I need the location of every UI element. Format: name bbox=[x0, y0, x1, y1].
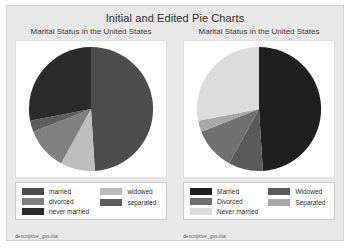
source-note-edited: descriptive_gss.dta bbox=[183, 233, 226, 239]
legend-swatch-married bbox=[22, 188, 44, 195]
plot-area-edited bbox=[183, 40, 335, 178]
legend-swatch-never-married bbox=[190, 208, 212, 215]
panel-edited-pie-chart: Marital Status in the United States bbox=[175, 27, 343, 241]
legend-swatch-never-married bbox=[22, 208, 44, 215]
legend-label-never-married: Never married bbox=[217, 208, 258, 215]
legend-item-never-married[interactable]: never married bbox=[22, 207, 100, 217]
legend-initial: married divorced never married bbox=[15, 182, 167, 220]
panel-subtitle: Marital Status in the United States bbox=[7, 27, 175, 36]
legend-column-1: married divorced never married bbox=[22, 186, 100, 217]
legend-label-separated: Separated bbox=[295, 199, 325, 206]
pie-slice-married[interactable] bbox=[259, 47, 321, 171]
legend-swatch-married bbox=[190, 188, 212, 195]
legend-item-never-married[interactable]: Never married bbox=[190, 207, 268, 217]
legend-item-separated[interactable]: separated bbox=[100, 197, 162, 208]
legend-label-married: Married bbox=[217, 188, 239, 195]
pie-initial bbox=[25, 43, 157, 175]
graph-region: Initial and Edited Pie Charts Marital St… bbox=[6, 5, 344, 241]
legend-swatch-separated bbox=[100, 199, 122, 206]
legend-swatch-widowed bbox=[100, 188, 122, 195]
page-title: Initial and Edited Pie Charts bbox=[7, 12, 343, 24]
pie-slice-never-married[interactable] bbox=[197, 47, 259, 121]
legend-label-never-married: never married bbox=[49, 208, 89, 215]
legend-item-married[interactable]: Married bbox=[190, 186, 268, 196]
legend-label-separated: separated bbox=[127, 199, 156, 206]
source-note-initial: descriptive_gss.dta bbox=[15, 233, 58, 239]
panel-subtitle: Marital Status in the United States bbox=[175, 27, 343, 36]
legend-item-widowed[interactable]: widowed bbox=[100, 186, 162, 197]
pie-slice-never-married[interactable] bbox=[29, 47, 91, 121]
legend-label-divorced: Divorced bbox=[217, 198, 243, 205]
pie-chart-comparison-screen: Initial and Edited Pie Charts Marital St… bbox=[0, 0, 350, 251]
legend-column-1: Married Divorced Never married bbox=[190, 186, 268, 217]
pie-edited-svg bbox=[193, 43, 325, 175]
legend-edited: Married Divorced Never married bbox=[183, 182, 335, 220]
panel-initial-pie-chart: Marital Status in the United States bbox=[7, 27, 175, 241]
legend-swatch-widowed bbox=[268, 188, 290, 195]
legend-label-married: married bbox=[49, 188, 71, 195]
legend-swatch-divorced bbox=[190, 198, 212, 205]
pie-slice-married[interactable] bbox=[91, 47, 153, 171]
legend-label-divorced: divorced bbox=[49, 198, 74, 205]
pie-initial-svg bbox=[25, 43, 157, 175]
legend-label-widowed: widowed bbox=[127, 188, 152, 195]
panels-container: Marital Status in the United States bbox=[7, 27, 343, 241]
legend-column-2: Widowed Separated bbox=[268, 186, 330, 217]
legend-item-married[interactable]: married bbox=[22, 186, 100, 196]
legend-item-widowed[interactable]: Widowed bbox=[268, 186, 330, 197]
plot-area-initial bbox=[15, 40, 167, 178]
legend-item-divorced[interactable]: Divorced bbox=[190, 196, 268, 206]
legend-column-2: widowed separated bbox=[100, 186, 162, 217]
pie-edited bbox=[193, 43, 325, 175]
legend-label-widowed: Widowed bbox=[295, 188, 322, 195]
legend-item-separated[interactable]: Separated bbox=[268, 197, 330, 208]
legend-swatch-separated bbox=[268, 199, 290, 206]
legend-item-divorced[interactable]: divorced bbox=[22, 196, 100, 206]
legend-swatch-divorced bbox=[22, 198, 44, 205]
